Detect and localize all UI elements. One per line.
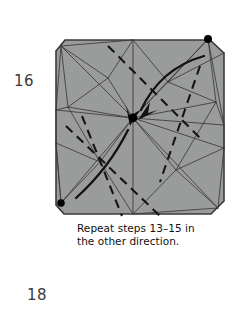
caption: Repeat steps 13–15 in the other directio… [77, 222, 227, 247]
dot-top-right [204, 35, 212, 43]
page-number: 18 [27, 286, 47, 304]
caption-line-2: the other direction. [77, 235, 227, 248]
page-canvas: 16 [0, 0, 241, 313]
caption-line-1: Repeat steps 13–15 in [77, 222, 227, 235]
dot-bottom-left [57, 199, 65, 207]
origami-diagram-svg [48, 30, 238, 224]
origami-diagram [48, 30, 238, 224]
dot-center [129, 114, 138, 123]
step-number: 16 [14, 72, 34, 90]
